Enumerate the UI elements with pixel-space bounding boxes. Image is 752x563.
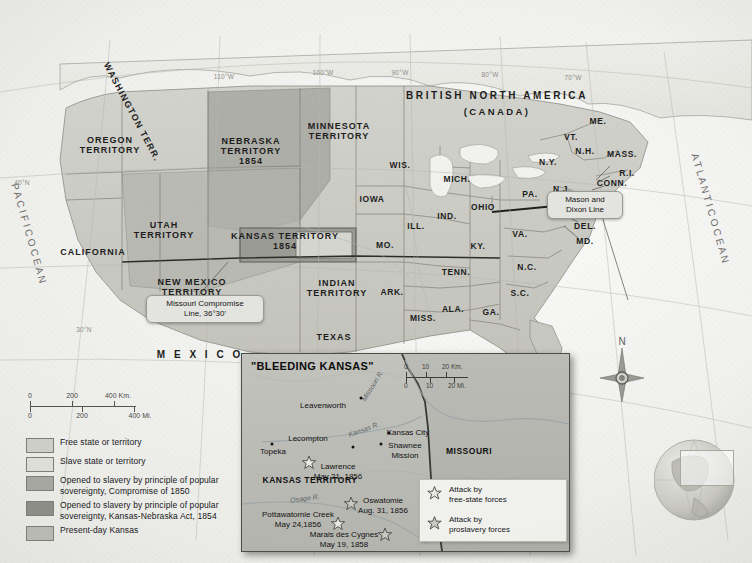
inset-city-dot <box>352 446 355 449</box>
globe-locator <box>654 424 750 524</box>
pacific-ocean-label: P A C I F I C O C E A N <box>6 178 46 348</box>
inset-scale-mi-0: 0 <box>404 382 408 389</box>
inset-scale-km-0: 0 <box>404 363 408 370</box>
callout-missouri-compromise: Missouri Compromise Line, 36°30' <box>146 295 264 323</box>
legend-swatch <box>26 476 54 491</box>
legend-swatch <box>26 526 54 541</box>
legend-label: Slave state or territory <box>60 456 146 467</box>
scale-mi-0: 0 <box>28 412 32 419</box>
atlantic-ocean-label: A T L A N T I C O C E A N <box>690 150 740 330</box>
atlantic-text: A T L A N T I C O C E A N <box>689 152 731 264</box>
inset-legend-item: Attack by free-state forces <box>420 480 566 510</box>
callout-mason-dixon: Mason and Dixon Line <box>547 191 623 219</box>
inset-scale-mi-10: 10 <box>426 382 433 389</box>
legend-swatch <box>26 501 54 516</box>
attack-star-icon <box>427 486 442 505</box>
main-scale-bar: 0 200 400 Km. 0 200 400 Mi. <box>30 392 136 421</box>
inset-city-dot <box>271 443 274 446</box>
inset-legend-label: Attack by proslavery forces <box>449 515 510 535</box>
scale-km-200: 200 <box>66 392 78 399</box>
inset-legend-item: Attack by proslavery forces <box>420 510 566 540</box>
attack-star-icon <box>344 497 359 516</box>
attack-star-icon <box>378 528 393 547</box>
legend-item: Opened to slavery by principle of popula… <box>26 500 251 522</box>
legend-label: Present-day Kansas <box>60 525 138 536</box>
attack-star-icon <box>302 456 317 475</box>
inset-scale-km-20: 20 Km. <box>442 363 463 370</box>
attack-star-icon <box>331 517 346 536</box>
scale-km-400: 400 Km. <box>105 392 131 399</box>
inset-legend-label: Attack by free-state forces <box>449 485 507 505</box>
legend-item: Slave state or territory <box>26 456 251 472</box>
legend-item: Opened to slavery by principle of popula… <box>26 475 251 497</box>
scale-km-0: 0 <box>28 392 32 399</box>
legend-item: Present-day Kansas <box>26 525 251 541</box>
legend-swatch <box>26 457 54 472</box>
inset-scale-km-10: 10 <box>422 363 429 370</box>
compass-north-label: N <box>618 336 625 347</box>
compass-rose: N <box>594 336 650 408</box>
attack-star-icon <box>427 516 442 535</box>
inset-title: "BLEEDING KANSAS" <box>251 360 374 372</box>
scale-mi-200: 200 <box>76 412 88 419</box>
inset-legend: Attack by free-state forcesAttack by pro… <box>419 479 567 542</box>
pacific-text: P A C I F I C O C E A N <box>9 182 48 284</box>
inset-scale-mi-20: 20 Mi. <box>448 382 466 389</box>
scale-mi-400: 400 Mi. <box>129 412 152 419</box>
globe-highlight-box <box>680 450 734 486</box>
inset-city-dot <box>388 432 391 435</box>
inset-map-bleeding-kansas: "BLEEDING KANSAS" 0 10 20 Km. 0 10 20 Mi… <box>241 353 570 552</box>
inset-city-dot <box>380 443 383 446</box>
legend-item: Free state or territory <box>26 437 251 453</box>
inset-city-dot <box>360 397 363 400</box>
legend-label: Opened to slavery by principle of popula… <box>60 475 219 497</box>
legend-swatch <box>26 438 54 453</box>
legend-label: Free state or territory <box>60 437 142 448</box>
map-screenshot: BRITISH NORTH AMERICA (CANADA) P A C I F… <box>0 0 752 563</box>
map-legend: Free state or territorySlave state or te… <box>26 437 251 544</box>
legend-label: Opened to slavery by principle of popula… <box>60 500 219 522</box>
inset-scale-bar: 0 10 20 Km. 0 10 20 Mi. <box>404 363 484 391</box>
